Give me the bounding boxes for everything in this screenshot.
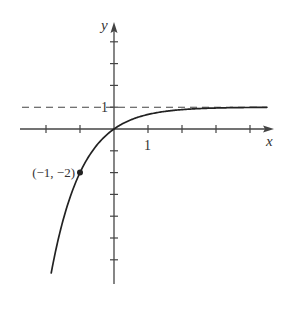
y-tick-label-1: 1	[101, 100, 108, 115]
x-tick-label-1: 1	[144, 138, 151, 153]
highlighted-point	[77, 170, 83, 176]
x-axis-label: x	[265, 133, 273, 149]
y-axis-label: y	[99, 17, 108, 33]
axes	[20, 22, 274, 284]
function-curve	[51, 107, 267, 273]
point-label: (−1, −2)	[32, 165, 75, 180]
function-graph: x y 1 1 (−1, −2)	[0, 0, 288, 311]
